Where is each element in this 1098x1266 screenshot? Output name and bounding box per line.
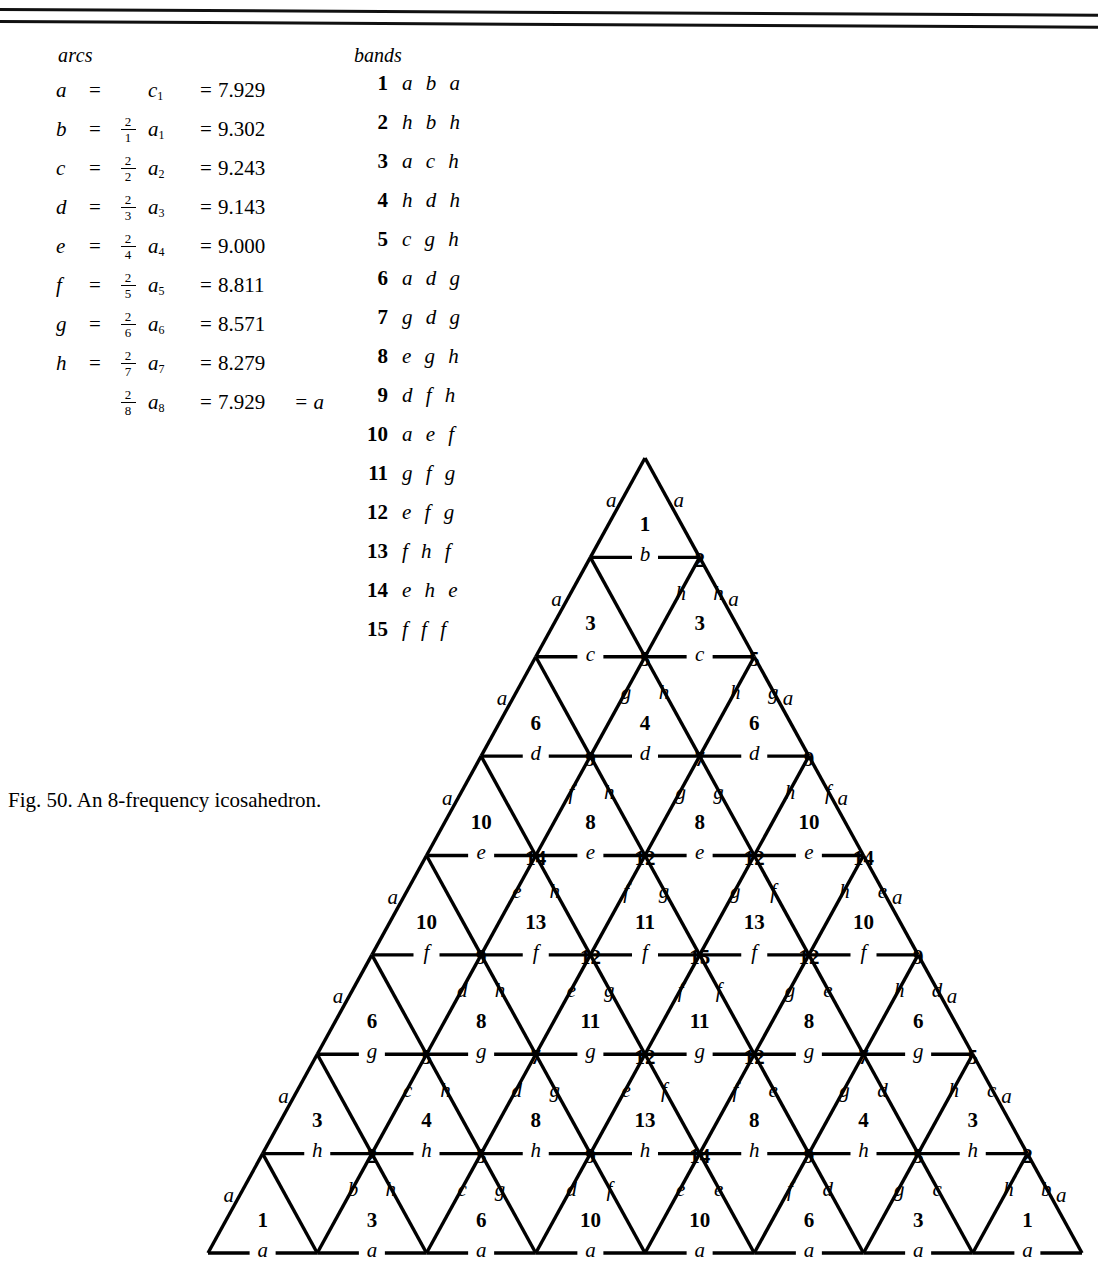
diagram-strut [809,756,864,855]
band-number-up: 10 [416,910,437,934]
band-number-down: 12 [798,945,819,969]
band-number-up: 3 [968,1108,979,1132]
edge-label-right: a [837,786,848,810]
icosahedron-face-diagram: bccdddeeeefffffgggggghhhhhhhaaaaaaaa1336… [0,0,1098,1266]
diagram-strut [372,955,427,1054]
strut-label-slant: h [604,780,615,804]
strut-label-horizontal: h [749,1138,760,1162]
diagram-strut [427,955,482,1054]
band-number-up: 3 [312,1108,323,1132]
strut-label-slant: g [675,780,686,804]
strut-label-slant: h [730,680,741,704]
diagram-strut [809,856,864,955]
band-number-down: 12 [635,846,656,870]
band-number-up: 11 [580,1009,600,1033]
strut-label-horizontal: a [1022,1238,1033,1262]
diagram-strut [590,557,645,656]
strut-label-slant: d [457,978,468,1002]
strut-label-slant: g [730,879,741,903]
strut-label-horizontal: a [476,1238,487,1262]
band-number-down: 9 [804,747,815,771]
band-number-up: 6 [749,711,760,735]
band-number-up: 3 [694,611,705,635]
band-number-up: 1 [640,512,651,536]
diagram-strut [864,856,919,955]
band-number-down: 5 [749,647,760,671]
strut-label-slant: h [785,780,796,804]
band-number-down: 9 [585,1144,596,1168]
band-number-down: 5 [968,1045,979,1069]
diagram-strut [317,1154,372,1253]
edge-label-left: a [387,885,398,909]
strut-label-slant: d [823,1177,834,1201]
diagram-strut [700,1054,755,1153]
diagram-strut [700,657,755,756]
strut-label-slant: h [675,581,686,605]
diagram-strut [864,1154,919,1253]
edge-label-right: a [1056,1183,1067,1207]
strut-label-horizontal: c [586,642,596,666]
strut-label-slant: e [621,1078,630,1102]
diagram-strut [700,1154,755,1253]
strut-label-horizontal: h [640,1138,651,1162]
diagram-strut [427,756,482,855]
strut-label-slant: e [823,978,832,1002]
diagram-strut [481,657,536,756]
band-number-up: 1 [1022,1208,1033,1232]
band-number-down: 2 [367,1144,378,1168]
diagram-strut [481,856,536,955]
strut-label-slant: h [1003,1177,1014,1201]
band-number-down: 9 [804,1144,815,1168]
band-number-down: 12 [580,945,601,969]
diagram-strut [590,1154,645,1253]
diagram-strut [427,1154,482,1253]
strut-label-slant: g [713,780,724,804]
band-number-up: 8 [585,810,596,834]
strut-label-horizontal: g [476,1039,487,1063]
strut-label-slant: h [713,581,724,605]
strut-label-slant: g [894,1177,905,1201]
strut-label-horizontal: d [640,741,651,765]
diagram-strut [536,657,591,756]
strut-label-horizontal: e [695,840,704,864]
edge-label-left: a [278,1084,289,1108]
strut-label-slant: d [877,1078,888,1102]
diagram-strut [317,955,372,1054]
band-number-down: 12 [635,1045,656,1069]
strut-label-slant: e [676,1177,685,1201]
strut-label-horizontal: h [858,1138,869,1162]
strut-label-horizontal: a [913,1238,924,1262]
band-number-up: 10 [689,1208,710,1232]
strut-label-horizontal: e [586,840,595,864]
diagram-labels: bccdddeeeefffffgggggghhhhhhhaaaaaaaa1336… [224,488,1067,1262]
edge-label-left: a [606,488,617,512]
band-number-up: 6 [531,711,542,735]
edge-label-left: a [551,587,562,611]
diagram-strut [645,557,700,656]
strut-label-slant: e [769,1078,778,1102]
diagram-strut [481,955,536,1054]
strut-label-slant: e [878,879,887,903]
band-number-down: 7 [531,1045,542,1069]
band-number-up: 13 [635,1108,656,1132]
diagram-strut [317,1054,372,1153]
diagram-strut [536,856,591,955]
band-number-down: 9 [585,747,596,771]
band-number-up: 8 [694,810,705,834]
diagram-strut [918,1054,973,1153]
band-number-up: 10 [798,810,819,834]
strut-label-slant: g [495,1177,506,1201]
band-number-up: 11 [635,910,655,934]
strut-label-slant: h [386,1177,397,1201]
strut-label-horizontal: e [804,840,813,864]
diagram-strut [973,1154,1028,1253]
strut-label-horizontal: h [312,1138,323,1162]
strut-label-slant: g [659,879,670,903]
diagram-strut [645,756,700,855]
edge-label-left: a [497,686,508,710]
band-number-up: 10 [580,1208,601,1232]
diagram-strut [918,955,973,1054]
band-number-up: 10 [853,910,874,934]
diagram-strut [700,756,755,855]
band-number-down: 14 [853,846,875,870]
